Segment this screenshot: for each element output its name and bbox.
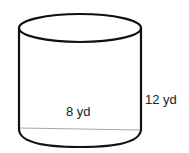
- top-ellipse: [19, 14, 141, 42]
- cylinder-diagram: 8 yd 12 yd: [0, 0, 189, 153]
- diameter-label: 8 yd: [66, 104, 91, 119]
- bottom-arc: [19, 129, 141, 147]
- cylinder: [19, 14, 141, 147]
- height-label: 12 yd: [145, 92, 177, 107]
- diameter-line: [20, 128, 140, 130]
